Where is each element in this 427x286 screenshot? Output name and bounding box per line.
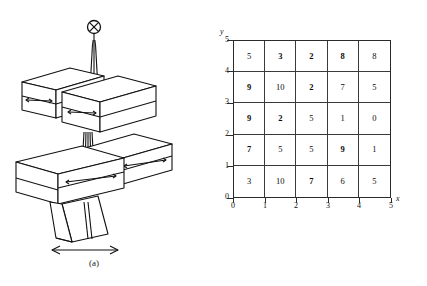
lower-left-block xyxy=(16,146,124,204)
grid-cell: 10 xyxy=(265,72,296,103)
grid-cell: 2 xyxy=(296,41,327,72)
y-tick-3: 3 xyxy=(219,98,229,106)
value-grid: 5 3 2 8 8 9 10 2 7 5 9 2 5 1 0 7 5 5 9 1 xyxy=(233,40,391,198)
x-tickmark-5 xyxy=(391,198,392,203)
grid-cell: 5 xyxy=(265,135,296,166)
grid-cell: 7 xyxy=(296,166,327,197)
grid-cell: 9 xyxy=(328,135,359,166)
grid-cell: 8 xyxy=(359,41,390,72)
panel-b-grid: y x 5 4 3 2 1 0 0 1 2 3 4 5 xyxy=(195,0,427,286)
x-tickmark-0 xyxy=(233,198,234,203)
grid-plot-area: y x 5 4 3 2 1 0 0 1 2 3 4 5 xyxy=(215,28,400,223)
tapered-pedestal xyxy=(50,196,108,242)
x-tickmark-1 xyxy=(265,198,266,203)
grid-cell: 8 xyxy=(328,41,359,72)
y-axis-label: y xyxy=(220,27,224,36)
grid-cell: 2 xyxy=(265,103,296,134)
bottom-dimension-arrow xyxy=(52,246,118,254)
x-tick-3: 3 xyxy=(323,202,333,210)
grid-cell: 5 xyxy=(296,103,327,134)
crossed-circle-icon xyxy=(88,21,101,34)
grid-cell: 2 xyxy=(296,72,327,103)
x-tickmark-3 xyxy=(328,198,329,203)
x-tickmark-4 xyxy=(359,198,360,203)
grid-cell: 5 xyxy=(359,166,390,197)
grid-cell: 3 xyxy=(234,166,265,197)
grid-cell: 9 xyxy=(234,72,265,103)
grid-cell: 5 xyxy=(296,135,327,166)
panel-a-diagram: (a) xyxy=(0,0,195,286)
grid-cell: 1 xyxy=(359,135,390,166)
grid-cell: 7 xyxy=(328,72,359,103)
x-tick-1: 1 xyxy=(260,202,270,210)
grid-cell: 10 xyxy=(265,166,296,197)
grid-cell: 1 xyxy=(328,103,359,134)
isometric-structure-drawing xyxy=(0,0,195,260)
grid-cell: 5 xyxy=(234,41,265,72)
x-tickmark-2 xyxy=(296,198,297,203)
y-tick-0: 0 xyxy=(219,193,229,201)
caption-panel-a: (a) xyxy=(74,258,114,268)
x-axis-label: x xyxy=(396,194,400,203)
x-tick-5: 5 xyxy=(386,202,396,210)
x-tick-2: 2 xyxy=(291,202,301,210)
figure-root: (a) y x 5 4 3 2 1 0 0 1 2 3 4 5 xyxy=(0,0,427,286)
grid-cell: 7 xyxy=(234,135,265,166)
y-tick-2: 2 xyxy=(219,130,229,138)
grid-cell: 6 xyxy=(328,166,359,197)
x-tick-4: 4 xyxy=(354,202,364,210)
grid-cell: 0 xyxy=(359,103,390,134)
x-tick-0: 0 xyxy=(228,202,238,210)
grid-cell: 9 xyxy=(234,103,265,134)
grid-cell: 3 xyxy=(265,41,296,72)
grid-cell: 5 xyxy=(359,72,390,103)
